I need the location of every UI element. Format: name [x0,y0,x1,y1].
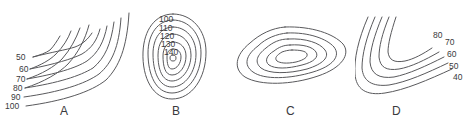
contour-line-c-inner [276,50,307,63]
contour-label-d-80: 80 [433,31,442,40]
contour-line-c-4 [267,45,317,68]
contour-line-c-outer [237,27,346,83]
panel-d: 80 70 60 50 40 [355,0,472,124]
contour-diagram-figure: 50 60 70 80 90 100 100 110 120 130 140 [0,0,472,124]
contour-label-a-100: 100 [5,102,19,111]
contour-line-a-apex-3 [27,28,80,79]
contour-line-d-70 [379,17,439,70]
contour-line-d-60 [370,17,444,77]
panel-letter-b: B [172,104,180,118]
contour-line-d-80 [388,17,432,62]
contour-label-d-40: 40 [453,73,462,82]
contour-label-a-60: 60 [19,65,28,74]
contour-label-b-140: 140 [164,48,178,57]
panel-letter-a: A [60,104,68,118]
contour-label-d-70: 70 [445,38,454,47]
contour-label-a-50: 50 [16,53,25,62]
panel-letter-d: D [392,104,401,118]
contour-line-c-2 [247,33,337,78]
contour-line-a-60 [30,29,100,69]
contour-label-d-50: 50 [449,62,458,71]
contour-line-d-50 [362,17,448,85]
contour-label-d-60: 60 [447,50,456,59]
panel-letter-c: C [286,104,295,118]
